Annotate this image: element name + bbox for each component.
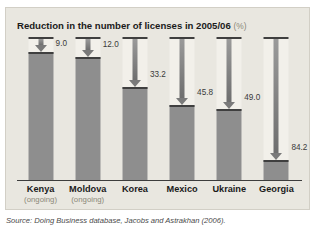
bar-column	[122, 37, 147, 180]
axis-line	[17, 180, 302, 181]
category-label-ukraine: Ukraine	[212, 184, 246, 194]
chart-title: Reduction in the number of licenses in 2…	[17, 20, 247, 31]
reduction-arrow-icon	[226, 39, 233, 109]
bar-remaining-fill	[75, 57, 100, 180]
bar-group	[159, 37, 206, 180]
bar-group	[206, 37, 253, 180]
arrow-head	[35, 45, 47, 52]
bar-column	[170, 37, 195, 180]
category-label-georgia: Georgia	[259, 184, 294, 194]
bar-value-label: 84.2	[291, 143, 307, 152]
reduction-arrow-icon	[179, 39, 186, 104]
bar-column	[28, 37, 53, 180]
arrow-shaft	[180, 39, 185, 97]
arrow-head	[82, 50, 94, 57]
category-label-korea: Korea	[122, 184, 148, 194]
bar-group	[111, 37, 158, 180]
bar-group	[17, 37, 64, 180]
reduction-arrow-icon	[273, 39, 280, 159]
category-name: Mexico	[167, 184, 198, 194]
bar-remaining-fill	[170, 105, 195, 180]
bar-column	[75, 37, 100, 180]
arrow-shaft	[132, 39, 137, 79]
bar-column	[217, 37, 242, 180]
plot-area: 9.012.033.245.849.084.2	[17, 37, 300, 180]
chart-title-unit: (%)	[233, 21, 246, 31]
arrow-shaft	[274, 39, 279, 152]
category-name: Georgia	[259, 184, 294, 194]
bar-group	[64, 37, 111, 180]
arrow-shaft	[227, 39, 232, 102]
arrow-head	[176, 98, 188, 105]
bar-column	[264, 37, 289, 180]
bar-remaining-fill	[217, 109, 242, 180]
category-name: Korea	[122, 184, 148, 194]
category-name: Moldova	[69, 184, 106, 194]
bar-group	[253, 37, 300, 180]
reduction-arrow-icon	[37, 39, 44, 52]
bar-remaining-fill	[122, 87, 147, 180]
category-label-kenya: Kenya(ongoing)	[24, 184, 57, 204]
chart-panel: Reduction in the number of licenses in 2…	[5, 7, 310, 210]
arrow-head	[223, 102, 235, 109]
bar-remaining-fill	[28, 52, 53, 180]
category-name: Kenya	[24, 184, 57, 194]
arrow-shaft	[85, 39, 90, 49]
category-note: (ongoing)	[69, 195, 106, 204]
category-label-mexico: Mexico	[167, 184, 198, 194]
reduction-arrow-icon	[84, 39, 91, 56]
arrow-head	[270, 153, 282, 160]
reduction-arrow-icon	[131, 39, 138, 86]
category-name: Ukraine	[212, 184, 246, 194]
category-note: (ongoing)	[24, 195, 57, 204]
arrow-head	[129, 80, 141, 87]
chart-title-main: Reduction in the number of licenses in 2…	[17, 20, 231, 31]
bar-remaining-fill	[264, 160, 289, 180]
category-label-moldova: Moldova(ongoing)	[69, 184, 106, 204]
source-note: Source: Doing Business database, Jacobs …	[6, 216, 226, 225]
category-labels: Kenya(ongoing)Moldova(ongoing)KoreaMexic…	[17, 184, 300, 210]
